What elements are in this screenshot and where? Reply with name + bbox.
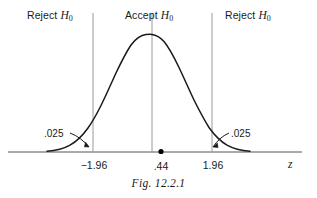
region-label-accept: Accept H0 [125,9,173,23]
hypothesis-subscript-left: 0 [69,14,73,23]
region-label-reject-right: Reject H0 [225,9,271,23]
hypothesis-subscript-center: 0 [169,14,173,23]
region-label-reject-left-text: Reject [27,9,60,21]
hypothesis-subscript-right: 0 [267,14,271,23]
hypothesis-symbol-left: H [60,9,68,21]
tick-label-upper-critical: 1.96 [196,159,230,171]
normal-density-curve [47,34,250,151]
tick-label-lower-critical: −1.96 [73,159,115,171]
region-label-accept-text: Accept [125,9,161,21]
tail-probability-right: .025 [231,128,250,139]
hypothesis-symbol-center: H [161,9,169,21]
test-statistic-marker [158,149,163,154]
figure-caption: Fig. 12.2.1 [0,177,317,189]
region-label-reject-left: Reject H0 [27,9,73,23]
tail-probability-left: .025 [44,128,63,139]
axis-variable-label: z [288,158,292,170]
tick-label-test-statistic: .44 [146,160,176,172]
region-label-reject-right-text: Reject [225,9,258,21]
hypothesis-symbol-right: H [258,9,266,21]
figure-container: Reject H0 Accept H0 Reject H0 .025 .025 … [0,0,317,198]
